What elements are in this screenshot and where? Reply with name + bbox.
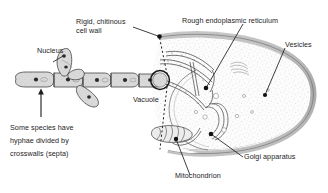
label-septa-pre: crosswalls (	[10, 149, 48, 158]
dot-golgi	[209, 132, 214, 137]
label-septa-bold: septa	[48, 149, 66, 158]
dot-mitochondrion	[174, 137, 178, 141]
label-septa-line3: crosswalls (septa)	[10, 150, 68, 159]
label-mitochondrion: Mitochondrion	[175, 172, 221, 181]
dot-vesicles	[263, 93, 267, 97]
magnified-tip	[153, 73, 167, 87]
fungal-cell-diagram	[0, 0, 328, 193]
label-septa-post: )	[66, 149, 68, 158]
label-vesicles: Vesicles	[285, 41, 312, 50]
label-nucleus: Nucleus	[37, 47, 63, 56]
dot-cell-wall	[157, 34, 162, 39]
label-vacuole: Vacuole	[133, 96, 159, 105]
label-septa-line2: hyphae divided by	[10, 137, 69, 146]
dot-rough-er	[204, 86, 209, 91]
label-septa-line1: Some species have	[10, 124, 74, 133]
label-cell-wall-line2: cell wall	[76, 27, 102, 36]
label-rough-er: Rough endoplasmic reticulum	[182, 17, 278, 26]
label-golgi-apparatus: Golgi apparatus	[244, 153, 296, 162]
hypha-branch-down-nucleus	[87, 95, 91, 98]
